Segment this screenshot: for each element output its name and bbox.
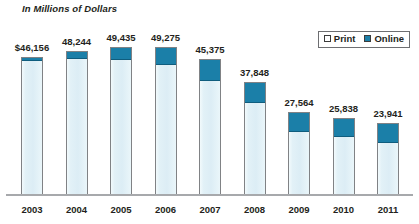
bar-segment-online-2008[interactable] [245, 83, 265, 103]
x-axis-label-2004: 2004 [55, 204, 99, 215]
x-axis-label-2008: 2008 [233, 204, 277, 215]
bar-value-label-2009: 27,564 [284, 97, 313, 108]
x-axis-label-2007: 2007 [188, 204, 232, 215]
bar-value-label-2010: 25,838 [329, 103, 358, 114]
x-axis-label-2010: 2010 [322, 204, 366, 215]
x-axis-label-2003: 2003 [10, 204, 54, 215]
bar-2011[interactable] [377, 123, 399, 195]
bar-segment-online-2004[interactable] [67, 52, 87, 59]
bar-segment-online-2005[interactable] [111, 48, 131, 60]
bar-segment-online-2007[interactable] [200, 60, 220, 80]
x-axis-line [6, 194, 413, 196]
bar-segment-online-2006[interactable] [156, 48, 176, 64]
x-axis-label-2009: 2009 [277, 204, 321, 215]
x-axis-label-2011: 2011 [366, 204, 410, 215]
bar-segment-online-2009[interactable] [289, 113, 309, 131]
bar-value-label-2011: 23,941 [373, 108, 402, 119]
bar-value-label-2004: 48,244 [62, 36, 91, 47]
bar-value-label-2003: $46,156 [15, 42, 49, 53]
bar-2006[interactable] [155, 47, 177, 195]
bar-2004[interactable] [66, 51, 88, 195]
bar-value-label-2005: 49,435 [106, 32, 135, 43]
bar-2009[interactable] [288, 112, 310, 195]
stacked-bar-chart: In Millions of Dollars Print Online $46,… [0, 0, 419, 224]
bar-segment-online-2003[interactable] [22, 58, 42, 62]
bar-2008[interactable] [244, 82, 266, 195]
bar-2003[interactable] [21, 57, 43, 195]
bar-segment-online-2010[interactable] [334, 119, 354, 138]
bar-2005[interactable] [110, 47, 132, 195]
bar-value-label-2006: 49,275 [151, 32, 180, 43]
bar-2007[interactable] [199, 59, 221, 195]
x-axis-label-2005: 2005 [99, 204, 143, 215]
bar-segment-online-2011[interactable] [378, 124, 398, 143]
bar-value-label-2007: 45,375 [195, 44, 224, 55]
x-axis-label-2006: 2006 [144, 204, 188, 215]
bar-value-label-2008: 37,848 [240, 67, 269, 78]
bar-2010[interactable] [333, 118, 355, 195]
plot-area: $46,156200348,244200449,435200549,275200… [0, 0, 419, 224]
